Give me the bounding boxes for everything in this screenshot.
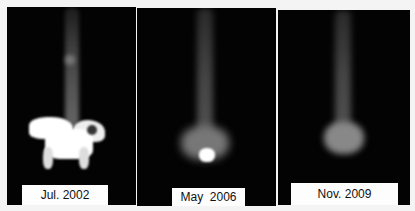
date-label: Nov. 2009: [291, 183, 398, 205]
pelvis-uptake: [324, 122, 364, 154]
scan-panel-nov-2009: [278, 10, 410, 205]
femur-uptake: [43, 147, 53, 169]
hot-spot: [65, 55, 75, 65]
date-label: May 2006: [172, 188, 245, 206]
spine-uptake: [65, 7, 79, 127]
scan-panel-may-2006: [137, 8, 276, 206]
scan-panel-jul-2002: [7, 7, 136, 205]
dark-spot: [87, 125, 97, 135]
spine-uptake: [335, 10, 351, 140]
hot-spot: [199, 148, 215, 162]
date-label: Jul. 2002: [22, 185, 108, 205]
femur-uptake: [79, 147, 89, 169]
